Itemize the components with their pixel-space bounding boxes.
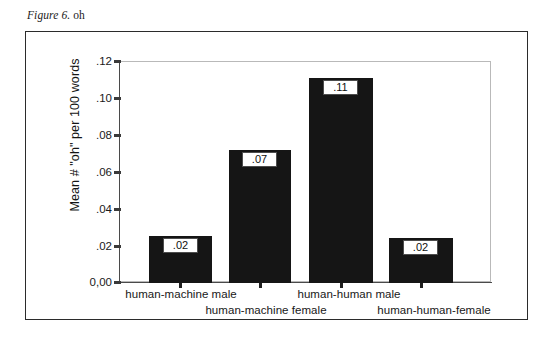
figure-number: Figure 6. — [27, 9, 70, 21]
bar-value-label: .11 — [323, 80, 358, 95]
x-category-label: human-machine female — [205, 304, 326, 316]
y-tick-label: 0,00 — [50, 276, 112, 288]
bar-value-label: .02 — [163, 238, 198, 253]
bar[interactable] — [229, 150, 291, 283]
y-tick-mark — [114, 97, 121, 100]
y-tick-label: .08 — [50, 129, 112, 141]
figure-frame: Mean # "oh" per 100 words .12 .10 .08 .0… — [25, 31, 528, 320]
figure-caption: Figure 6. oh — [27, 9, 85, 21]
y-tick-label: .04 — [50, 203, 112, 215]
y-tick-label: .02 — [50, 240, 112, 252]
figure-title: oh — [73, 9, 85, 21]
x-category-label: human-machine male — [125, 288, 236, 300]
bar[interactable] — [309, 78, 373, 283]
x-category-label: human-human-female — [377, 304, 490, 316]
y-tick-mark — [114, 208, 121, 211]
bar-chart: Mean # "oh" per 100 words .12 .10 .08 .0… — [26, 32, 529, 321]
y-tick-label: .10 — [50, 92, 112, 104]
bar-value-label: .07 — [242, 152, 277, 167]
y-tick-mark — [114, 281, 121, 284]
x-tick-mark — [420, 283, 423, 288]
x-tick-mark — [259, 283, 262, 288]
y-tick-mark — [114, 60, 121, 63]
y-tick-mark — [114, 245, 121, 248]
x-category-label: human-human male — [297, 288, 400, 300]
y-tick-label: .06 — [50, 166, 112, 178]
bar-value-label: .02 — [403, 240, 438, 255]
y-tick-mark — [114, 171, 121, 174]
y-tick-label: .12 — [50, 55, 112, 67]
y-tick-mark — [114, 134, 121, 137]
